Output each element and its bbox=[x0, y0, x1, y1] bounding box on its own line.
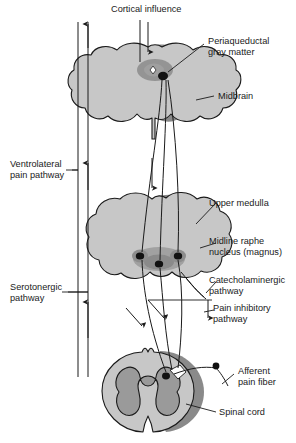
label-periaqueductal-line1: Periaqueductal bbox=[208, 36, 269, 46]
label-midline-raphe-line2: nucleus (magnus) bbox=[209, 247, 282, 257]
label-afferent-line1: Afferent bbox=[238, 366, 270, 376]
dorsal-horn-neuron bbox=[162, 373, 170, 380]
label-ventrolateral-line1: Ventrolateral bbox=[10, 159, 62, 169]
raphe-neuron-right bbox=[174, 252, 182, 259]
raphe-neuron-middle bbox=[155, 260, 163, 267]
label-serotonergic-line2: pathway bbox=[10, 293, 45, 303]
label-serotonergic-line1: Serotonergic bbox=[10, 282, 62, 292]
label-ventrolateral-line2: pain pathway bbox=[10, 170, 65, 180]
label-afferent-line2: pain fiber bbox=[238, 377, 276, 387]
afferent-fiber-terminal bbox=[213, 363, 220, 370]
label-pain-inhibitory-line1: Pain inhibitory bbox=[213, 303, 271, 313]
pain-pathway-diagram: Cortical influence Periaqueductal gray m… bbox=[0, 0, 296, 443]
raphe-neuron-left bbox=[136, 252, 144, 259]
diagram-canvas: Cortical influence Periaqueductal gray m… bbox=[0, 0, 296, 443]
label-catecholaminergic-line2: pathway bbox=[209, 286, 244, 296]
label-catecholaminergic-line1: Catecholaminergic bbox=[209, 275, 285, 285]
label-cortical-influence: Cortical influence bbox=[111, 4, 181, 14]
pag-neuron-cell-body bbox=[158, 72, 168, 80]
label-spinal-cord: Spinal cord bbox=[219, 407, 265, 417]
label-midbrain: Midbrain bbox=[218, 91, 253, 101]
label-periaqueductal-line2: gray matter bbox=[208, 47, 254, 57]
label-pain-inhibitory-line2: pathway bbox=[213, 314, 248, 324]
label-upper-medulla: Upper medulla bbox=[209, 198, 270, 208]
label-midline-raphe-line1: Midline raphe bbox=[209, 236, 264, 246]
